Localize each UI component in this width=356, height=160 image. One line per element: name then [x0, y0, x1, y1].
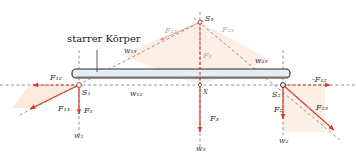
f13-label: F₁₃: [57, 104, 70, 113]
w1-label: w₁: [74, 131, 83, 140]
f1-label: F₁: [83, 106, 93, 115]
w2-label: w₂: [279, 136, 288, 145]
s3-label: S₃: [205, 14, 214, 23]
s1-label: S₁: [82, 88, 91, 97]
point-s2: [281, 83, 286, 88]
w12-label: w₁₂: [130, 89, 142, 98]
s2-label: S₂: [272, 90, 281, 99]
f2-label: F₂: [273, 105, 283, 114]
f23-faint-label: F₂₃: [221, 25, 234, 34]
f3-label: F₃: [209, 114, 219, 123]
rigid-body-rod: [72, 69, 290, 78]
point-s3: [198, 20, 202, 24]
w13-label: w₁₃: [124, 46, 136, 55]
f23-label: F₂₃: [315, 103, 328, 112]
neg-f12-label: -F₁₂: [312, 75, 327, 84]
rigid-body-label: starrer Körper: [67, 33, 141, 44]
w3-label: w₃: [196, 144, 205, 153]
x-label: X: [202, 88, 209, 96]
w23-label: w₂₃: [255, 56, 267, 65]
f13-faint-label: F₁₃: [164, 26, 177, 35]
f3-faint-label: F₃: [202, 51, 212, 60]
rigid-body-force-diagram: starrer Körper S₁ S₂ S₃ X F₁ F₂ F₃ F₁₂ -…: [0, 0, 356, 160]
f12-label: F₁₂: [49, 73, 62, 82]
point-s1: [77, 83, 82, 88]
point-x: [198, 83, 201, 86]
